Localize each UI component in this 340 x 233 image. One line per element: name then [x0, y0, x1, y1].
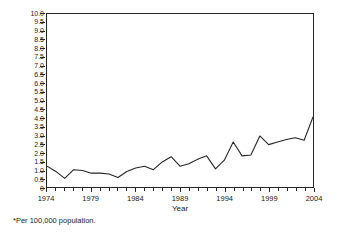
incidence-line: [47, 117, 313, 178]
line-series-svg: [47, 14, 313, 187]
y-axis-tick-mark: [40, 153, 45, 154]
x-axis-tick-label: 1999: [249, 194, 289, 203]
x-axis-title: Year: [46, 204, 314, 214]
x-axis-minor-tick-mark: [109, 188, 110, 191]
y-axis-tick-mark: [40, 118, 45, 119]
y-axis-tick-mark: [40, 66, 45, 67]
x-axis-minor-tick-mark: [126, 188, 127, 191]
y-axis-tick-mark: [40, 171, 45, 172]
y-axis-tick-mark: [40, 83, 45, 84]
y-axis-tick-mark: [40, 22, 45, 23]
x-axis-minor-tick-mark: [207, 188, 208, 191]
x-axis-minor-tick-mark: [243, 188, 244, 191]
y-axis-tick-mark: [40, 92, 45, 93]
x-axis-minor-tick-mark: [117, 188, 118, 191]
y-axis-tick-mark: [40, 127, 45, 128]
y-axis-tick-mark: [40, 57, 45, 58]
y-axis-tick-mark: [40, 136, 45, 137]
y-axis-tick-mark: [40, 48, 45, 49]
x-axis-tick-label: 1994: [205, 194, 245, 203]
x-axis-major-tick-mark: [269, 188, 270, 192]
x-axis-minor-tick-mark: [171, 188, 172, 191]
y-axis-tick-mark: [40, 31, 45, 32]
x-axis-minor-tick-mark: [216, 188, 217, 191]
x-axis-tick-label: 1984: [115, 194, 155, 203]
x-axis-tick-label: 1979: [71, 194, 111, 203]
x-axis-minor-tick-mark: [296, 188, 297, 191]
x-axis-major-tick-mark: [46, 188, 47, 192]
y-axis-tick-mark: [40, 179, 45, 180]
x-axis-tick-label: 1989: [160, 194, 200, 203]
y-axis-tick-mark: [40, 74, 45, 75]
x-axis-minor-tick-mark: [287, 188, 288, 191]
x-axis-tick-label: 2004: [294, 194, 334, 203]
x-axis-minor-tick-mark: [144, 188, 145, 191]
x-axis-minor-tick-mark: [82, 188, 83, 191]
y-axis-tick-mark: [40, 144, 45, 145]
y-axis-tick-mark: [40, 109, 45, 110]
x-axis-minor-tick-mark: [234, 188, 235, 191]
plot-area: [46, 13, 314, 188]
y-axis-tick-mark: [40, 162, 45, 163]
x-axis-minor-tick-mark: [198, 188, 199, 191]
x-axis-minor-tick-mark: [260, 188, 261, 191]
chart-footnote: *Per 100,000 population.: [13, 216, 96, 225]
x-axis-minor-tick-mark: [162, 188, 163, 191]
x-axis-major-tick-mark: [314, 188, 315, 192]
x-axis-minor-tick-mark: [251, 188, 252, 191]
x-axis-minor-tick-mark: [100, 188, 101, 191]
x-axis-minor-tick-mark: [305, 188, 306, 191]
x-axis-tick-label: 1974: [26, 194, 66, 203]
x-axis-minor-tick-mark: [64, 188, 65, 191]
x-axis-major-tick-mark: [91, 188, 92, 192]
y-axis-tick-mark: [40, 13, 45, 14]
y-axis-tick-mark: [40, 101, 45, 102]
chart-figure: Incidence 10.09.59.08.58.07.57.06.56.05.…: [0, 0, 340, 233]
y-axis-tick-mark: [40, 39, 45, 40]
y-axis-tick-mark: [40, 188, 45, 189]
x-axis-minor-tick-mark: [73, 188, 74, 191]
x-axis-minor-tick-mark: [55, 188, 56, 191]
x-axis-minor-tick-mark: [153, 188, 154, 191]
x-axis-minor-tick-mark: [278, 188, 279, 191]
x-axis-major-tick-mark: [135, 188, 136, 192]
x-axis-major-tick-mark: [180, 188, 181, 192]
x-axis-major-tick-mark: [225, 188, 226, 192]
x-axis-minor-tick-mark: [189, 188, 190, 191]
